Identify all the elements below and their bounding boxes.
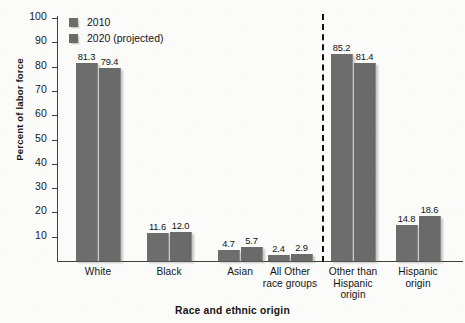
legend-swatch-icon	[69, 18, 78, 27]
y-axis-tick-label: 10	[35, 229, 47, 241]
vertical-dashed-divider	[322, 14, 324, 262]
bar-0-4	[331, 54, 353, 261]
bar-value-label: 79.4	[98, 57, 121, 67]
y-axis-tick-label: 70	[35, 83, 47, 95]
legend-label: 2010	[87, 17, 110, 28]
bar-1-0	[99, 68, 121, 261]
y-axis-tick-label: 30	[35, 180, 47, 192]
bar-1-4	[354, 63, 376, 261]
bar-value-label: 4.7	[217, 239, 240, 249]
bar-value-label: 18.6	[418, 205, 441, 215]
y-axis-tick-label: 100	[29, 10, 47, 22]
x-axis-line	[57, 261, 463, 262]
chart-legend: 20102020 (projected)	[69, 14, 163, 46]
bar-value-label: 81.3	[75, 52, 98, 62]
x-axis-label-line: origin	[373, 278, 463, 290]
bar-0-2	[218, 250, 240, 261]
y-axis-tick-label: 50	[35, 132, 47, 144]
x-axis-title: Race and ethnic origin	[0, 305, 465, 316]
bar-0-5	[396, 225, 418, 261]
bar-value-label: 2.4	[267, 244, 290, 254]
bar-value-label: 5.7	[240, 236, 263, 246]
bar-value-label: 12.0	[169, 221, 192, 231]
x-axis-label-5: Hispanicorigin	[373, 266, 463, 289]
y-axis-tick-label: 20	[35, 204, 47, 216]
x-axis-label-line: Hispanic	[373, 266, 463, 278]
bar-1-1	[170, 232, 192, 261]
y-axis-title: Percent of labor force	[14, 25, 25, 195]
bar-chart: Percent of labor force Race and ethnic o…	[0, 0, 465, 323]
bar-0-3	[268, 255, 290, 261]
bar-value-label: 85.2	[330, 43, 353, 53]
legend-item-0: 2010	[69, 14, 163, 30]
x-axis-label-line: origin	[308, 289, 398, 301]
bar-value-label: 81.4	[353, 52, 376, 62]
y-axis-tick-label: 60	[35, 107, 47, 119]
y-axis-tick-label: 80	[35, 59, 47, 71]
bar-1-2	[241, 247, 263, 261]
bar-value-label: 14.8	[395, 214, 418, 224]
bar-1-5	[419, 216, 441, 261]
bar-value-label: 11.6	[146, 222, 169, 232]
bar-0-1	[147, 233, 169, 261]
y-axis-tick-label: 90	[35, 34, 47, 46]
bar-value-label: 2.9	[290, 243, 313, 253]
bar-1-3	[291, 254, 313, 261]
legend-label: 2020 (projected)	[87, 33, 163, 44]
y-axis-tick-label: 40	[35, 156, 47, 168]
plot-area: 81.379.411.612.04.75.72.42.985.281.414.8…	[57, 14, 463, 261]
bar-0-0	[76, 63, 98, 261]
legend-swatch-icon	[69, 34, 78, 43]
legend-item-1: 2020 (projected)	[69, 30, 163, 46]
